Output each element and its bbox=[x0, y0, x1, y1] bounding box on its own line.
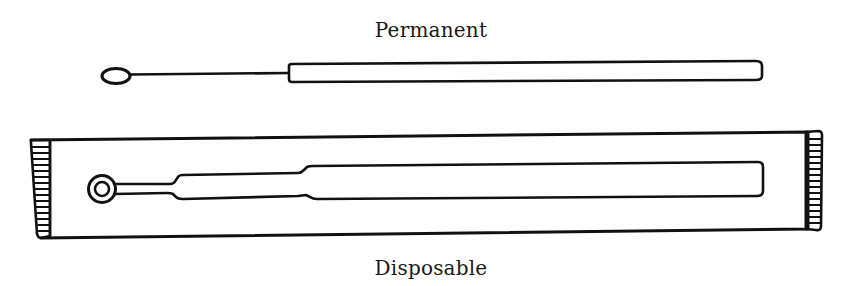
ring-loop-tip-icon bbox=[89, 176, 116, 203]
left-crimp bbox=[31, 140, 50, 238]
disposable-loop bbox=[89, 162, 764, 203]
stepped-shaft bbox=[114, 162, 763, 199]
oval-loop-tip-icon bbox=[102, 69, 130, 84]
handle bbox=[289, 61, 762, 82]
wire-shaft bbox=[130, 73, 289, 75]
permanent-loop bbox=[102, 61, 762, 84]
illustration bbox=[0, 0, 846, 286]
